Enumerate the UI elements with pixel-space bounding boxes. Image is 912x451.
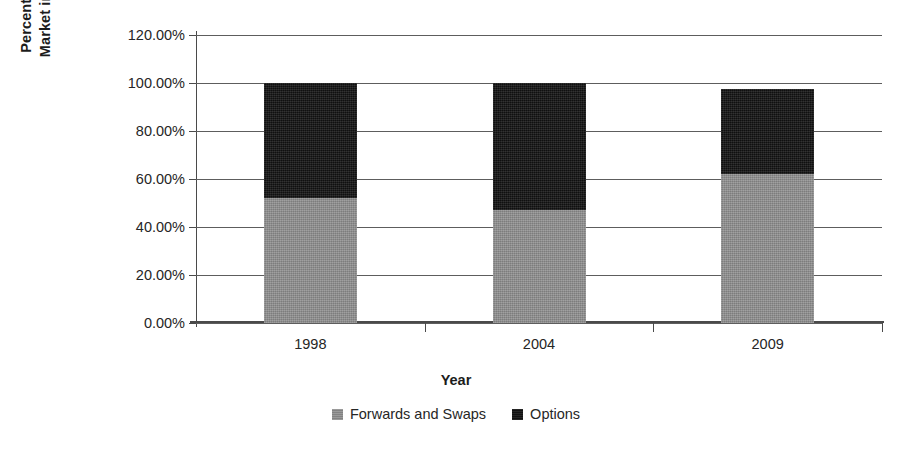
bar-stack[interactable] <box>721 35 814 323</box>
legend-swatch-forwards-and-swaps-icon <box>332 409 343 420</box>
bar-segment[interactable] <box>264 83 357 198</box>
x-axis-title: Year <box>0 372 912 388</box>
legend-item-forwards-and-swaps[interactable]: Forwards and Swaps <box>332 406 486 422</box>
x-tick-mark <box>425 323 426 332</box>
bar-stack[interactable] <box>264 35 357 323</box>
bar-segment[interactable] <box>721 89 814 174</box>
y-axis-title: Percentage of Total Market in Given Year <box>6 0 66 120</box>
y-axis-title-line-2: Market in Given Year <box>36 0 55 57</box>
bar-segment[interactable] <box>264 198 357 323</box>
gridline <box>196 323 882 324</box>
y-tick-label: 80.00% <box>136 123 185 139</box>
bar-segment[interactable] <box>493 83 586 210</box>
y-tick-label: 120.00% <box>128 27 185 43</box>
bar-segment[interactable] <box>493 210 586 323</box>
legend-swatch-options-icon <box>512 409 523 420</box>
legend-label-forwards-and-swaps: Forwards and Swaps <box>350 406 486 422</box>
bar-stack[interactable] <box>493 35 586 323</box>
legend-label-options: Options <box>530 406 580 422</box>
x-tick-mark <box>882 323 883 332</box>
plot-area: 0.00%20.00%40.00%60.00%80.00%100.00%120.… <box>196 35 882 323</box>
y-tick-mark <box>189 131 196 132</box>
chart-legend: Forwards and Swaps Options <box>0 406 912 422</box>
y-tick-mark <box>189 275 196 276</box>
x-tick-mark <box>653 323 654 332</box>
x-tick-label: 2004 <box>523 336 555 352</box>
y-tick-label: 0.00% <box>144 315 185 331</box>
y-tick-label: 40.00% <box>136 219 185 235</box>
y-tick-label: 20.00% <box>136 267 185 283</box>
y-tick-mark <box>189 179 196 180</box>
x-tick-label: 2009 <box>752 336 784 352</box>
x-tick-label: 1998 <box>294 336 326 352</box>
bar-segment[interactable] <box>721 174 814 323</box>
chart-figure: Percentage of Total Market in Given Year… <box>0 0 912 451</box>
y-tick-mark <box>189 323 196 324</box>
y-tick-label: 100.00% <box>128 75 185 91</box>
legend-item-options[interactable]: Options <box>512 406 580 422</box>
y-axis-title-line-1: Percentage of Total <box>17 0 36 53</box>
y-tick-mark <box>189 35 196 36</box>
y-tick-label: 60.00% <box>136 171 185 187</box>
y-tick-mark <box>189 83 196 84</box>
y-tick-mark <box>189 227 196 228</box>
